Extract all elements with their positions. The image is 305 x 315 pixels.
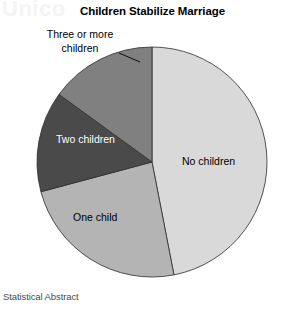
slice-label-three-or-more-children: Three or more children xyxy=(24,27,136,55)
pie-chart-figure: Unico Children Stabilize Marriage Three … xyxy=(0,0,305,315)
slice-label-line-2: children xyxy=(62,42,99,54)
slice-label-two-children: Two children xyxy=(56,133,115,145)
slice-label-one-child: One child xyxy=(73,211,117,223)
source-caption: Statistical Abstract xyxy=(3,291,79,302)
slice-label-no-children: No children xyxy=(182,155,235,167)
slice-label-line-1: Three or more xyxy=(47,28,114,40)
